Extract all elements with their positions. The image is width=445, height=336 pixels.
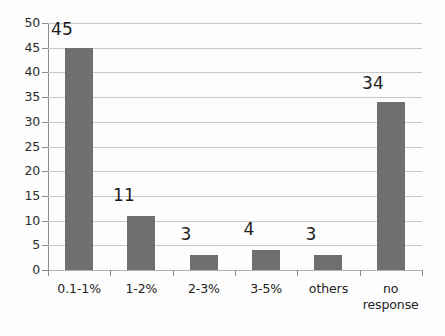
y-axis-tick-labels: 50 45 40 35 30 25 20 15 10 5 0 (0, 0, 40, 336)
x-tick-mark-4 (297, 270, 298, 276)
y-tick-label-25: 25 (6, 141, 40, 154)
gridline-20 (48, 171, 422, 172)
bar-0[interactable] (65, 48, 93, 270)
x-tick-mark-0 (48, 270, 49, 276)
y-tick-label-0: 0 (6, 264, 40, 277)
x-axis-label-4: others (297, 281, 359, 297)
x-tick-mark-1 (110, 270, 111, 276)
x-axis-label-0: 0.1-1% (48, 281, 110, 297)
x-axis-label-2: 2-3% (173, 281, 235, 297)
bar-value-3: 4 (232, 221, 266, 238)
bar-value-5: 34 (356, 75, 390, 92)
gridline-15 (48, 196, 422, 197)
y-tick-label-45: 45 (6, 42, 40, 55)
y-tick-label-40: 40 (6, 66, 40, 79)
gridline-35 (48, 97, 422, 98)
x-axis-label-5-line-1: no (383, 281, 398, 296)
bar-1[interactable] (127, 216, 155, 270)
bar-4[interactable] (314, 255, 342, 270)
x-tick-mark-5 (360, 270, 361, 276)
bar-value-4: 3 (294, 226, 328, 243)
x-axis-label-5-line-2: response (363, 297, 419, 312)
x-axis-label-5: no response (352, 281, 430, 313)
x-tick-mark-6 (422, 270, 423, 276)
y-tick-label-30: 30 (6, 116, 40, 129)
bar-value-0: 45 (45, 21, 79, 38)
bar-value-1: 11 (107, 187, 141, 204)
gridline-50 (48, 23, 422, 24)
x-tick-mark-3 (235, 270, 236, 276)
gridline-5 (48, 245, 422, 246)
y-tick-label-20: 20 (6, 165, 40, 178)
gridline-30 (48, 122, 422, 123)
y-tick-label-35: 35 (6, 91, 40, 104)
bar-2[interactable] (190, 255, 218, 270)
x-axis-label-1: 1-2% (110, 281, 172, 297)
x-axis-label-3: 3-5% (235, 281, 297, 297)
gridline-45 (48, 48, 422, 49)
bar-3[interactable] (252, 250, 280, 270)
gridline-25 (48, 147, 422, 148)
x-tick-mark-2 (173, 270, 174, 276)
bar-chart-screenshot: 50 45 40 35 30 25 20 15 10 5 0 (0, 0, 445, 336)
bar-5[interactable] (377, 102, 405, 270)
y-tick-label-10: 10 (6, 215, 40, 228)
y-tick-label-15: 15 (6, 190, 40, 203)
y-tick-label-50: 50 (6, 17, 40, 30)
bar-value-2: 3 (169, 226, 203, 243)
y-tick-label-5: 5 (6, 239, 40, 252)
